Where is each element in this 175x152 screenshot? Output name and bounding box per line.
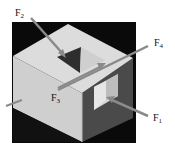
cube-force-diagram: F2 F4 F3 F1 — [0, 0, 175, 152]
label-f1: F1 — [153, 112, 163, 125]
label-f2: F2 — [15, 7, 25, 20]
label-f4: F4 — [154, 37, 164, 50]
